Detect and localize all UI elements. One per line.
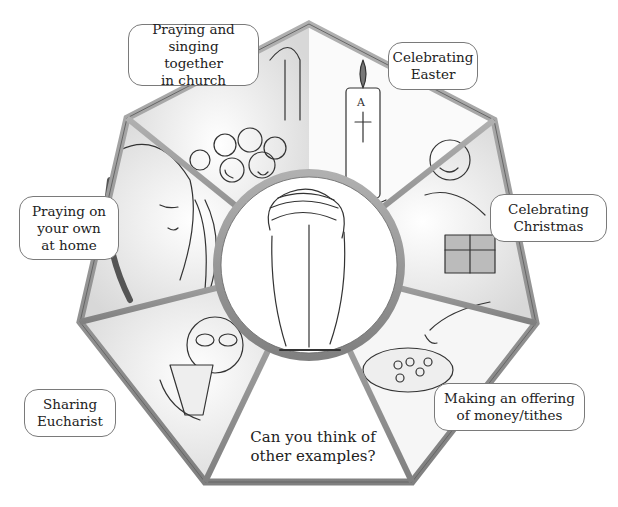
svg-text:A: A	[356, 96, 366, 109]
label-easter: Celebrating Easter	[388, 42, 478, 90]
label-easter-text: Celebrating Easter	[393, 49, 474, 83]
label-home-text: Praying on your own at home	[32, 203, 106, 254]
center-medallion	[217, 173, 401, 357]
label-eucharist-text: Sharing Eucharist	[37, 396, 103, 430]
label-christmas: Celebrating Christmas	[490, 194, 607, 242]
label-home: Praying on your own at home	[19, 196, 119, 260]
label-eucharist: Sharing Eucharist	[24, 389, 116, 437]
label-offering-text: Making an offering of money/tithes	[444, 390, 575, 424]
label-church: Praying and singing together in church	[128, 24, 259, 86]
label-christmas-text: Celebrating Christmas	[508, 201, 589, 235]
label-church-text: Praying and singing together in church	[137, 21, 250, 89]
question-text: Can you think of other examples?	[248, 428, 378, 466]
label-offering: Making an offering of money/tithes	[434, 383, 585, 431]
